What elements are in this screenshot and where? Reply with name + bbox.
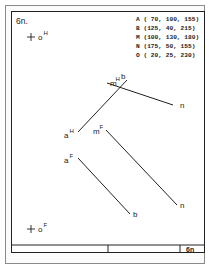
origin-frontal: o F <box>27 222 48 234</box>
label-aF: a <box>64 156 69 165</box>
origin-h-label: o <box>38 33 43 42</box>
coord-a: A ( 70, 100, 155) <box>136 16 199 23</box>
label-bF: b <box>133 210 138 219</box>
horizontal-line-mn: m H n <box>107 76 184 110</box>
title-block: 6n <box>12 245 205 253</box>
label-mF-sup: F <box>100 124 104 130</box>
coord-n: N (175, 50, 155) <box>136 43 195 50</box>
coord-o: O ( 20, 25, 230) <box>136 52 195 59</box>
plus-marker-icon <box>27 225 35 233</box>
label-nF: n <box>180 201 184 210</box>
frontal-line-mn: m F n <box>93 124 184 210</box>
label-bH: b <box>121 72 126 81</box>
coordinates-table: A ( 70, 100, 155) B (125, 40, 215) M (10… <box>136 16 199 59</box>
origin-f-sup: F <box>44 222 48 228</box>
origin-h-sup: H <box>44 30 48 36</box>
label-mH-sup: H <box>116 76 120 82</box>
title-block-sheet-number: 6n <box>186 246 194 253</box>
label-aH-sup: H <box>70 128 74 134</box>
plus-marker-icon <box>27 33 35 41</box>
label-nH: n <box>180 101 184 110</box>
origin-f-label: o <box>38 225 43 234</box>
frontal-line-ab: a F b <box>64 153 138 219</box>
coord-m: M (100, 130, 180) <box>136 34 199 41</box>
sheet-number-label: 6n. <box>16 16 28 26</box>
origin-horizontal: o H <box>27 30 48 42</box>
coord-b: B (125, 40, 215) <box>136 25 195 32</box>
descriptive-geometry-drawing: 6n. A ( 70, 100, 155) B (125, 40, 215) M… <box>0 0 211 269</box>
label-aH: a <box>64 131 69 140</box>
label-aF-sup: F <box>70 153 74 159</box>
